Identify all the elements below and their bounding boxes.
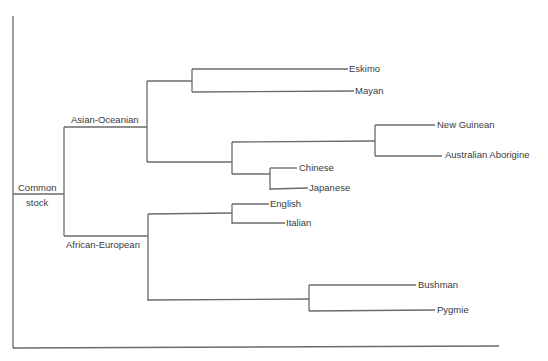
group-label-asian-oceanian: Asian-Oceanian bbox=[71, 115, 139, 125]
leaf-label-pygmie: Pygmie bbox=[437, 305, 469, 315]
leaf-label-mayan: Mayan bbox=[355, 86, 384, 96]
japanese-branch bbox=[270, 188, 308, 189]
leaf-label-eskimo: Eskimo bbox=[349, 64, 380, 74]
leaf-label-chinese: Chinese bbox=[299, 163, 334, 173]
leaf-label-english: English bbox=[270, 199, 301, 209]
oceanic-branch bbox=[232, 141, 375, 142]
group-label-african-european: African-European bbox=[66, 240, 140, 250]
bottom-axis bbox=[13, 346, 499, 348]
leaf-label-italian: Italian bbox=[286, 218, 311, 228]
leaf-label-bushman: Bushman bbox=[418, 280, 458, 290]
pygmie-branch bbox=[309, 310, 435, 311]
root-label-line2: stock bbox=[26, 198, 48, 208]
leaf-label-australian-aborigine: Australian Aborigine bbox=[445, 150, 530, 160]
leaf-label-new-guinean: New Guinean bbox=[437, 120, 495, 130]
mayan-branch bbox=[192, 91, 354, 92]
african-branch bbox=[148, 299, 309, 300]
root-label-line1: Common bbox=[18, 183, 57, 193]
european-branch bbox=[148, 213, 232, 214]
leaf-label-japanese: Japanese bbox=[309, 183, 350, 193]
